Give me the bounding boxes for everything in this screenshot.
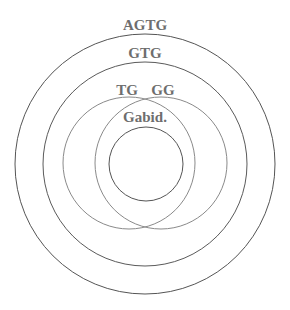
nested-circles-diagram: AGTG GTG TG GG Gabid. <box>0 0 290 310</box>
label-tg: TG <box>116 82 138 98</box>
label-gtg: GTG <box>128 45 162 61</box>
label-gg: GG <box>151 82 175 98</box>
label-agtg: AGTG <box>123 17 168 33</box>
circle-gabid <box>109 127 183 201</box>
circle-gtg <box>43 62 247 266</box>
label-gabid: Gabid. <box>123 109 167 125</box>
circle-agtg <box>15 34 275 294</box>
